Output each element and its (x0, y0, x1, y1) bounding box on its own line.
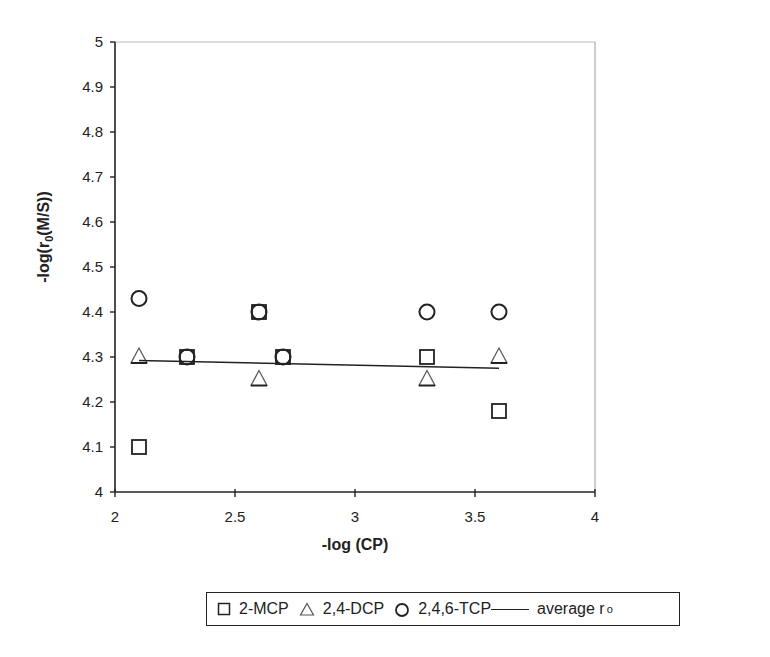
series-2-4-6-tcp (132, 291, 507, 365)
square-marker-icon (217, 602, 231, 616)
scatter-chart: 44.14.24.34.44.54.64.74.84.9522.533.54-l… (0, 0, 770, 590)
y-axis-title: -log(r0(M/S)) (35, 191, 55, 282)
triangle-marker (491, 348, 507, 363)
legend-label: average r (537, 600, 605, 618)
y-tick-label: 4.7 (82, 168, 103, 185)
legend-item-2-4-dcp: 2,4-DCP (299, 600, 384, 618)
square-marker (132, 440, 146, 454)
x-tick-label: 2 (111, 508, 119, 525)
circle-marker (420, 305, 435, 320)
x-tick-label: 4 (591, 508, 599, 525)
legend-label: 2,4-DCP (323, 600, 384, 618)
legend-item-2-mcp: 2-MCP (217, 600, 289, 618)
legend: 2-MCP 2,4-DCP 2,4,6-TCP average ro (206, 592, 680, 626)
triangle-marker (251, 371, 267, 386)
y-tick-label: 4.2 (82, 393, 103, 410)
legend-item-average: average ro (491, 600, 613, 618)
y-tick-label: 4.8 (82, 123, 103, 140)
x-tick-label: 2.5 (225, 508, 246, 525)
legend-subscript: o (607, 603, 613, 615)
triangle-marker (419, 371, 435, 386)
legend-item-2-4-6-tcp: 2,4,6-TCP (394, 600, 491, 618)
series-2-mcp (132, 305, 506, 454)
x-tick-label: 3.5 (465, 508, 486, 525)
circle-marker (492, 305, 507, 320)
x-tick-label: 3 (351, 508, 359, 525)
legend-label: 2-MCP (239, 600, 289, 618)
circle-marker (276, 350, 291, 365)
y-tick-label: 5 (95, 33, 103, 50)
legend-label: 2,4,6-TCP (418, 600, 491, 618)
y-tick-label: 4.4 (82, 303, 103, 320)
x-axis-title: -log (CP) (322, 536, 389, 553)
y-tick-label: 4.5 (82, 258, 103, 275)
y-tick-label: 4.6 (82, 213, 103, 230)
circle-marker (252, 305, 267, 320)
triangle-marker-icon (299, 602, 315, 616)
circle-marker (132, 291, 147, 306)
y-tick-label: 4.9 (82, 78, 103, 95)
y-tick-label: 4 (95, 483, 103, 500)
square-marker (492, 404, 506, 418)
line-marker-icon (491, 609, 529, 610)
square-marker (420, 350, 434, 364)
y-tick-label: 4.1 (82, 438, 103, 455)
y-tick-label: 4.3 (82, 348, 103, 365)
circle-marker-icon (394, 601, 410, 617)
